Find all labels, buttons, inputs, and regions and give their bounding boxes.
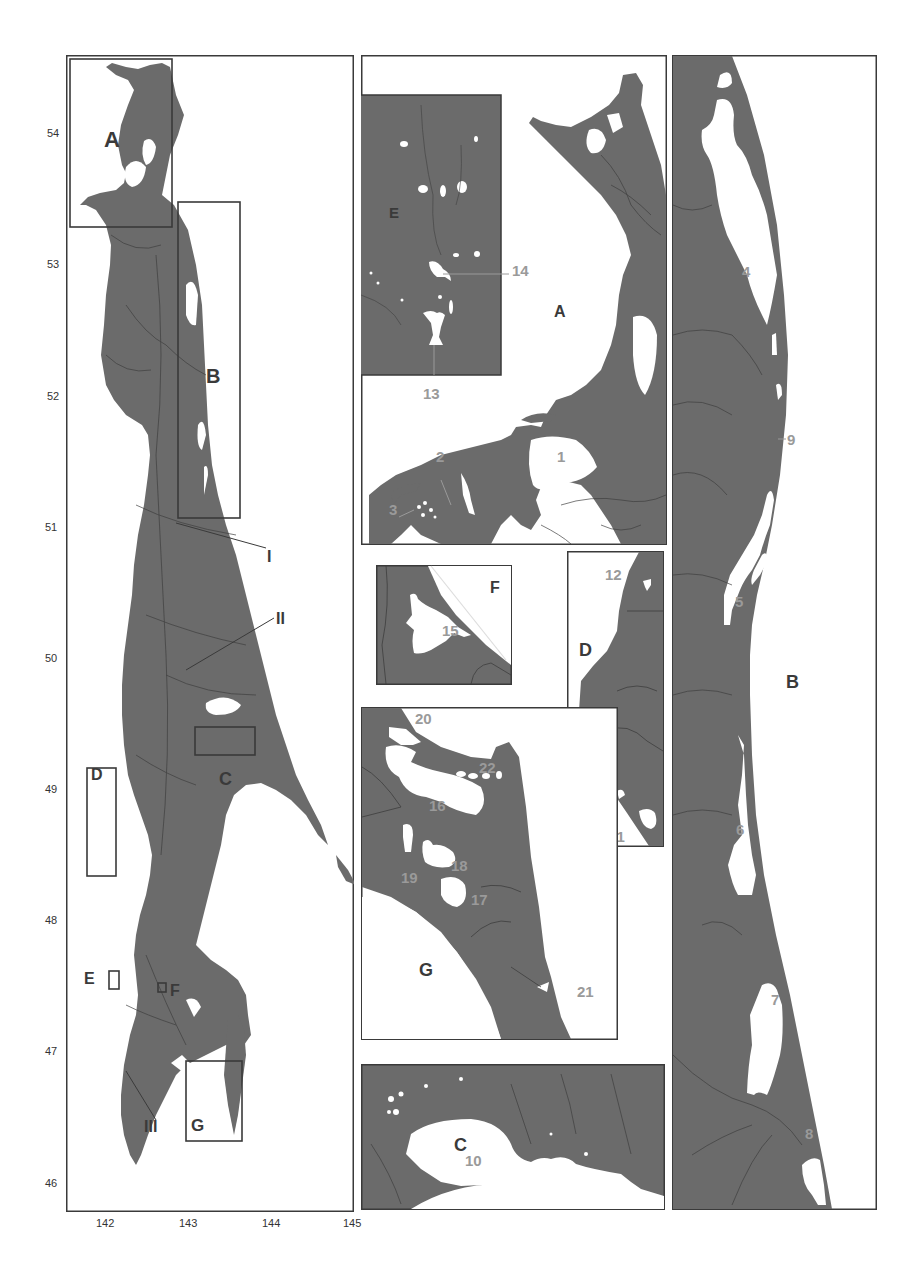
lake-12-label: 12 bbox=[605, 566, 622, 583]
lake-13-label: 13 bbox=[423, 385, 440, 402]
x-tick-145: 145 bbox=[343, 1217, 361, 1229]
lagoon-7-label: 7 bbox=[771, 991, 779, 1008]
lake-16-label: 16 bbox=[429, 797, 446, 814]
inset-label-A: A bbox=[104, 127, 120, 153]
river-label-I: I bbox=[267, 548, 271, 566]
y-tick-53: 53 bbox=[47, 258, 59, 270]
panel-F-label: F bbox=[490, 579, 500, 597]
lake-10-label: 10 bbox=[465, 1152, 482, 1169]
inset-label-E: E bbox=[84, 970, 95, 988]
lake-19-label: 19 bbox=[401, 869, 418, 886]
panel-F: F 15 bbox=[376, 565, 512, 685]
lagoon-1-label: 1 bbox=[557, 448, 565, 465]
lagoon-4-label: 4 bbox=[742, 263, 750, 280]
y-tick-54: 54 bbox=[47, 127, 59, 139]
lake-18-label: 18 bbox=[451, 857, 468, 874]
lagoon-9-label: 9 bbox=[787, 431, 795, 448]
y-tick-52: 52 bbox=[47, 390, 59, 402]
panel-A-label: A bbox=[554, 303, 566, 321]
panel-A: A E 14 13 1 2 3 bbox=[361, 55, 667, 545]
lagoon-6-label: 6 bbox=[736, 821, 744, 838]
inset-label-G: G bbox=[191, 1116, 204, 1136]
lagoon-2-label: 2 bbox=[436, 448, 444, 465]
lagoon-5-label: 5 bbox=[735, 593, 743, 610]
y-tick-48: 48 bbox=[45, 914, 57, 926]
x-tick-144: 144 bbox=[262, 1217, 280, 1229]
y-tick-51: 51 bbox=[45, 521, 57, 533]
lake-20-label: 20 bbox=[415, 710, 432, 727]
y-tick-46: 46 bbox=[45, 1177, 57, 1189]
inset-label-B: B bbox=[206, 365, 220, 388]
river-label-II: II bbox=[276, 610, 285, 628]
inset-E-label: E bbox=[389, 204, 399, 221]
inset-label-C: C bbox=[219, 769, 232, 790]
lake-21-label: 21 bbox=[577, 983, 594, 1000]
inset-label-F: F bbox=[170, 982, 180, 1000]
y-tick-47: 47 bbox=[45, 1045, 57, 1057]
lagoon-8-label: 8 bbox=[805, 1125, 813, 1142]
inset-label-D: D bbox=[91, 766, 103, 784]
lake-14-label: 14 bbox=[512, 262, 529, 279]
panel-D-label: D bbox=[579, 640, 592, 661]
x-tick-142: 142 bbox=[96, 1217, 114, 1229]
lagoon-3-label: 3 bbox=[389, 501, 397, 518]
panel-G-label: G bbox=[419, 960, 433, 981]
lake-17-label: 17 bbox=[471, 891, 488, 908]
inset-E bbox=[361, 95, 501, 375]
lake-15-label: 15 bbox=[442, 622, 459, 639]
x-tick-143: 143 bbox=[179, 1217, 197, 1229]
panel-C: C 10 bbox=[361, 1064, 665, 1210]
lake-22-label: 22 bbox=[479, 759, 496, 776]
panel-G: G 20 22 16 18 19 17 21 bbox=[361, 707, 618, 1040]
y-tick-49: 49 bbox=[45, 783, 57, 795]
panel-B-label: B bbox=[786, 672, 799, 693]
y-tick-50: 50 bbox=[45, 652, 57, 664]
river-label-III: III bbox=[144, 1118, 157, 1136]
panel-B: B 4 9 5 6 7 8 bbox=[672, 55, 877, 1210]
overview-map bbox=[66, 55, 354, 1212]
